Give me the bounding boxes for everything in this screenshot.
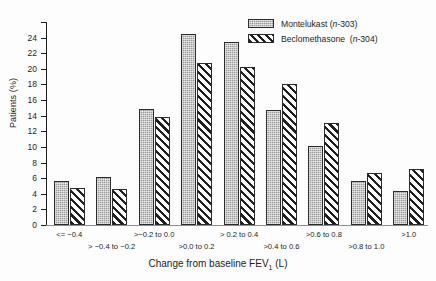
x-axis-title-post: (L): [272, 258, 287, 269]
x-axis-category-label: >0.6 to 0.8: [279, 231, 369, 239]
legend-item-montelukast: Montelukast (n-303): [248, 16, 378, 31]
bar-montelukast: [139, 109, 154, 225]
legend-label-beclomethasone: Beclomethasone (n-304): [281, 34, 378, 44]
bar-group: [351, 22, 382, 225]
bar-beclomethasone: [367, 173, 382, 225]
legend-n-montelukast: (n-303): [327, 19, 357, 29]
x-axis-category-label: >−0.2 to 0.0: [109, 231, 199, 239]
legend-swatch-beclomethasone-icon: [248, 34, 274, 43]
x-axis-category-label: >1.0: [364, 231, 436, 239]
x-axis-title: Change from baseline FEV1 (L): [0, 258, 436, 271]
chart-figure: 024681012141618202224 Patients (%) <= −0…: [0, 0, 436, 281]
bar-group: [224, 22, 255, 225]
x-axis-category-label: <= −0.4: [24, 231, 114, 239]
legend-item-beclomethasone: Beclomethasone (n-304): [248, 31, 378, 46]
bar-montelukast: [181, 34, 196, 225]
bar-group: [393, 22, 424, 225]
bar-montelukast: [393, 191, 408, 225]
legend-n-beclomethasone: (n-304): [345, 34, 378, 44]
bar-group: [96, 22, 127, 225]
x-axis-category-label: >0.0 to 0.2: [152, 243, 242, 251]
x-axis-line: [46, 225, 428, 226]
legend-name-montelukast: Montelukast: [281, 19, 327, 29]
y-axis-label: Patients (%): [8, 63, 18, 143]
x-axis-category-label: >0.4 to 0.6: [236, 243, 326, 251]
bar-group: [181, 22, 212, 225]
y-axis-tick-label: 10: [13, 143, 37, 152]
bar-beclomethasone: [70, 188, 85, 225]
y-axis-tick-label: 4: [13, 190, 37, 199]
bar-montelukast: [96, 177, 111, 225]
x-axis-category-label: >0.8 to 1.0: [321, 243, 411, 251]
legend-n-italic: n: [333, 19, 338, 29]
y-axis-tick-label: 6: [13, 174, 37, 183]
y-axis-tick-label: 2: [13, 205, 37, 214]
bar-group: [139, 22, 170, 225]
legend-swatch-montelukast-icon: [248, 19, 274, 28]
y-axis-tick-label: 8: [13, 159, 37, 168]
bar-montelukast: [308, 146, 323, 225]
bar-beclomethasone: [155, 117, 170, 225]
bar-montelukast: [54, 181, 69, 226]
y-axis-tick-label: 0: [13, 221, 37, 230]
bar-group: [266, 22, 297, 225]
bar-beclomethasone: [282, 84, 297, 225]
bar-montelukast: [266, 110, 281, 225]
y-axis-tick-label: 24: [13, 34, 37, 43]
bar-montelukast: [351, 181, 366, 226]
legend-name-beclomethasone: Beclomethasone: [281, 34, 345, 44]
bar-group: [308, 22, 339, 225]
legend-label-montelukast: Montelukast (n-303): [281, 19, 357, 29]
bar-group: [54, 22, 85, 225]
bar-beclomethasone: [240, 67, 255, 225]
bar-beclomethasone: [197, 63, 212, 225]
y-axis-tick-label: 22: [13, 49, 37, 58]
x-axis-title-pre: Change from baseline FEV: [149, 258, 269, 269]
bar-beclomethasone: [409, 169, 424, 225]
plot-area: [46, 22, 428, 225]
legend: Montelukast (n-303) Beclomethasone (n-30…: [248, 16, 378, 46]
bar-beclomethasone: [324, 123, 339, 225]
x-axis-category-label: > −0.4 to −0.2: [67, 243, 157, 251]
legend-n-italic: n: [353, 34, 358, 44]
bar-montelukast: [224, 42, 239, 225]
bar-beclomethasone: [112, 189, 127, 225]
x-axis-category-label: > 0.2 to 0.4: [194, 231, 284, 239]
